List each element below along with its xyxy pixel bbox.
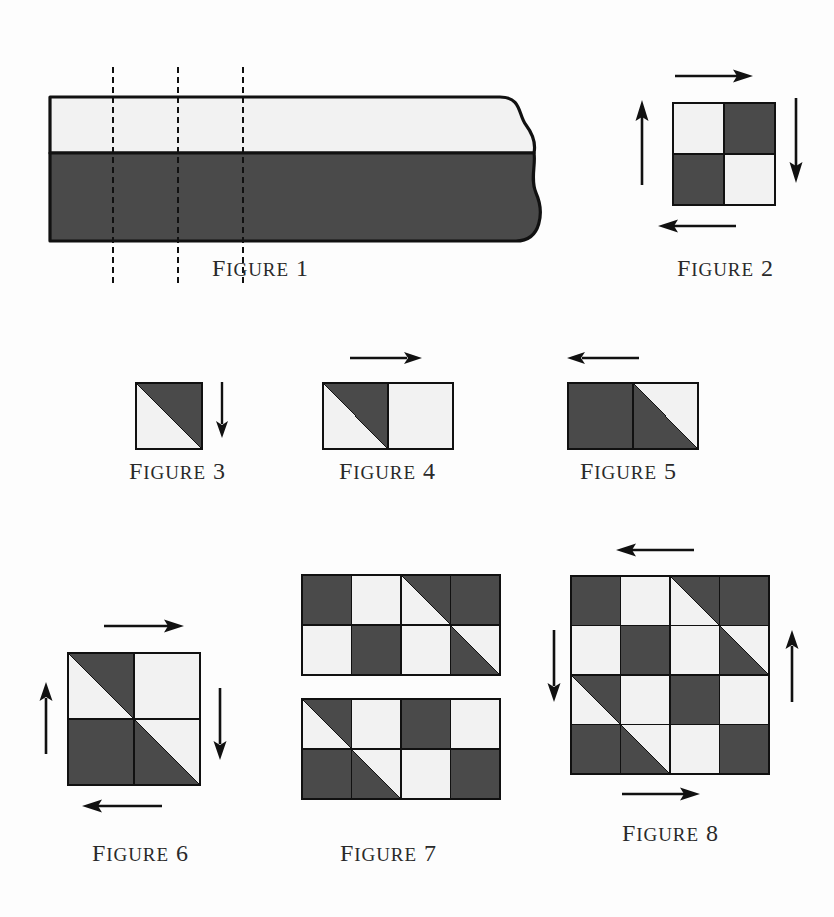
- tile-r4c3: [671, 725, 719, 773]
- caption-number-3: 3: [213, 458, 225, 484]
- caption-prefix-5: FIGURE: [580, 462, 657, 483]
- tile-r2c4: [720, 626, 768, 674]
- figure-4-grid: [322, 382, 454, 450]
- tile-r3c3: [671, 676, 719, 724]
- figure-8-grid: [570, 575, 770, 775]
- figure-3: FIGURE3: [90, 360, 280, 490]
- figure-7-caption: FIGURE7: [263, 840, 513, 867]
- tile-r1c2: [389, 384, 452, 448]
- caption-prefix-2: FIGURE: [677, 259, 754, 280]
- tile-r4c4: [720, 725, 768, 773]
- tile-r1c1: [303, 576, 351, 624]
- tile-r2c4: [451, 626, 499, 674]
- tile-r1c1: [137, 384, 201, 448]
- tile-r3c2: [621, 676, 669, 724]
- caption-number-1: 1: [296, 255, 308, 281]
- tile-r1c2: [352, 576, 400, 624]
- caption-number-6: 6: [176, 840, 188, 866]
- caption-prefix-1: FIGURE: [212, 259, 289, 280]
- arrow-right-down-icon: [788, 98, 804, 183]
- caption-prefix-3: FIGURE: [129, 462, 206, 483]
- caption-number-5: 5: [664, 458, 676, 484]
- tile-r2c2: [352, 626, 400, 674]
- caption-number-8: 8: [706, 820, 718, 846]
- figure-7: FIGURE7: [285, 560, 535, 890]
- figure-1-caption: FIGURE1: [0, 255, 560, 282]
- figure-4: FIGURE4: [300, 338, 510, 490]
- figure-6-caption: FIGURE6: [10, 840, 270, 867]
- strip-upper-band: [50, 97, 535, 153]
- arrow-top-left-icon: [567, 350, 639, 366]
- tile-r2c2: [725, 155, 774, 204]
- caption-prefix-6: FIGURE: [92, 844, 169, 865]
- cut-line-2: [177, 67, 179, 283]
- cut-line-3: [242, 67, 244, 283]
- tile-r1c4: [720, 577, 768, 625]
- strip-shape: [48, 95, 548, 255]
- tile-r1c4: [451, 700, 499, 748]
- figure-3-caption: FIGURE3: [82, 458, 272, 485]
- tile-r4c2: [621, 725, 669, 773]
- arrow-bottom-right-icon: [622, 786, 700, 802]
- tile-r1c3: [402, 700, 450, 748]
- figure-3-grid: [135, 382, 203, 450]
- figure-8-caption: FIGURE8: [530, 820, 810, 847]
- caption-prefix-4: FIGURE: [339, 462, 416, 483]
- caption-number-4: 4: [423, 458, 435, 484]
- arrow-right-up-icon: [784, 630, 800, 702]
- tile-r1c2: [621, 577, 669, 625]
- tile-r2c1: [303, 626, 351, 674]
- cut-line-1: [112, 67, 114, 283]
- arrow-top-left-icon: [616, 542, 694, 558]
- strip-lower-band: [50, 153, 540, 241]
- tile-r1c1: [572, 577, 620, 625]
- tile-r2c3: [671, 626, 719, 674]
- tile-r2c2: [135, 720, 199, 784]
- tile-r2c4: [451, 750, 499, 798]
- tile-r1c1: [69, 654, 133, 718]
- tile-r2c1: [572, 626, 620, 674]
- figure-5-grid: [567, 382, 699, 450]
- caption-prefix-7: FIGURE: [340, 844, 417, 865]
- caption-number-7: 7: [424, 840, 436, 866]
- figure-1: FIGURE1: [0, 40, 600, 300]
- tile-r3c4: [720, 676, 768, 724]
- arrow-left-up-icon: [634, 100, 650, 185]
- figure-5-caption: FIGURE5: [523, 458, 733, 485]
- figure-6-grid: [67, 652, 201, 786]
- tile-r1c2: [352, 700, 400, 748]
- tile-r1c1: [324, 384, 387, 448]
- tile-r2c1: [674, 155, 723, 204]
- tile-r4c1: [572, 725, 620, 773]
- tile-r1c3: [671, 577, 719, 625]
- arrow-right-down-icon: [214, 382, 230, 438]
- tile-r2c3: [402, 626, 450, 674]
- tile-r2c3: [402, 750, 450, 798]
- arrow-bottom-left-icon: [658, 218, 736, 234]
- tile-r2c1: [69, 720, 133, 784]
- tile-r1c4: [451, 576, 499, 624]
- tile-r1c1: [569, 384, 632, 448]
- caption-number-2: 2: [761, 255, 773, 281]
- figure-7-block-top: [301, 574, 501, 676]
- paper-strip: [48, 95, 548, 255]
- arrow-left-down-icon: [546, 630, 562, 702]
- tile-r1c2: [725, 104, 774, 153]
- figure-2-caption: FIGURE2: [620, 255, 830, 282]
- arrow-top-right-icon: [350, 350, 422, 366]
- tile-r1c2: [135, 654, 199, 718]
- figure-4-caption: FIGURE4: [282, 458, 492, 485]
- arrow-top-right-icon: [675, 68, 753, 84]
- tile-r1c2: [634, 384, 697, 448]
- tile-r2c1: [303, 750, 351, 798]
- tile-r1c1: [674, 104, 723, 153]
- tile-r2c2: [621, 626, 669, 674]
- figure-page: FIGURE1: [0, 0, 834, 917]
- tile-r3c1: [572, 676, 620, 724]
- arrow-bottom-left-icon: [82, 798, 162, 814]
- figure-7-block-bottom: [301, 698, 501, 800]
- figure-8: FIGURE8: [540, 530, 820, 890]
- tile-r1c3: [402, 576, 450, 624]
- arrow-right-down-icon: [212, 688, 228, 760]
- tile-r1c1: [303, 700, 351, 748]
